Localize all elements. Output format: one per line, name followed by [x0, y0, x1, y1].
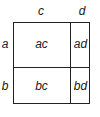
cell-bc: bc: [13, 80, 70, 92]
cell-bd: bd: [71, 80, 90, 92]
column-label-d: d: [76, 5, 88, 17]
column-label-c: c: [35, 5, 47, 17]
row-label-b: b: [0, 80, 10, 92]
cell-ad: ad: [71, 38, 90, 50]
horizontal-divider: [13, 67, 90, 68]
cell-ac: ac: [13, 38, 70, 50]
row-label-a: a: [0, 38, 10, 50]
